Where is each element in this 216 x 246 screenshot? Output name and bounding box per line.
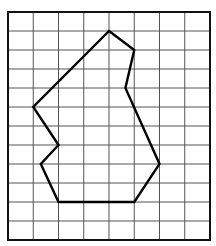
grid-diagram	[0, 0, 216, 246]
grid-lines	[8, 12, 210, 240]
polygon-shape	[33, 31, 159, 202]
